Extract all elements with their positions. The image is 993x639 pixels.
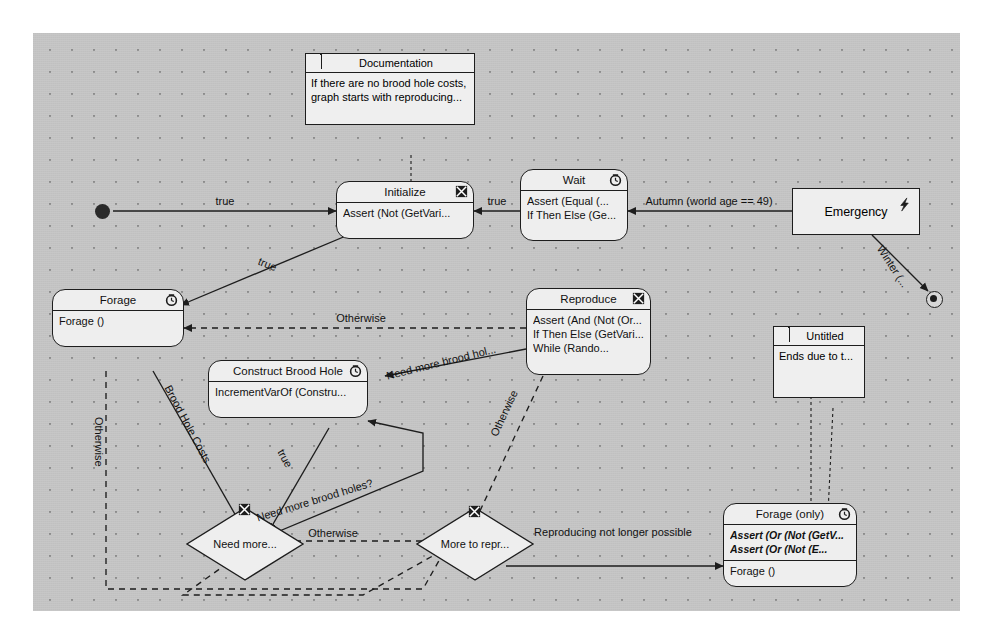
state-body: Assert (And (Not (Or... If Then Else (Ge… <box>527 310 650 359</box>
anchor-untitled-note <box>828 408 833 513</box>
edge-label-otherwise-decision: Otherwise <box>308 527 358 539</box>
state-title: Wait <box>563 174 586 186</box>
state-line: Assert (Equal (... <box>527 194 621 208</box>
lightning-icon <box>897 197 912 212</box>
state-forage-only[interactable]: Forage (only) Assert (Or (Not (GetV... A… <box>723 503 857 587</box>
state-header: Initialize <box>337 182 473 203</box>
crossed-box-icon <box>454 184 469 199</box>
state-body: Assert (Or (Not (GetV... Assert (Or (Not… <box>724 525 856 560</box>
crossed-box-icon <box>631 291 646 306</box>
note-body: Ends due to t... <box>774 346 864 366</box>
decision-need-more[interactable]: Need more... <box>185 506 305 582</box>
state-title: Forage <box>100 294 136 306</box>
state-title: Emergency <box>824 205 887 219</box>
state-wait[interactable]: Wait Assert (Equal (... If Then Else (Ge… <box>520 169 628 241</box>
state-line: Assert (Or (Not (GetV... <box>730 528 850 542</box>
diagram-editor: Documentation If there are no brood hole… <box>0 0 993 639</box>
decision-label: Need more... <box>185 506 305 582</box>
state-line: Assert (Or (Not (E... <box>730 542 850 556</box>
note-fold-icon <box>306 54 322 69</box>
edge-label-otherwise-long: Otherwise <box>93 417 105 467</box>
crossed-box-icon <box>467 504 482 519</box>
state-body-secondary: Forage () <box>724 560 856 582</box>
edge-label-true-initial: true <box>216 195 235 207</box>
state-line: While (Rando... <box>533 341 644 355</box>
state-header: Forage <box>53 290 183 311</box>
documentation-note[interactable]: Documentation If there are no brood hole… <box>305 53 475 125</box>
state-title: Construct Brood Hole <box>233 365 343 377</box>
edge-label-otherwise-forage: Otherwise <box>336 312 386 324</box>
initial-state[interactable] <box>95 204 110 219</box>
clock-icon <box>837 506 852 521</box>
note-fold-icon <box>774 327 790 342</box>
edge-label-reproducing-not-possible: Reproducing not longer possible <box>534 526 692 538</box>
state-reproduce[interactable]: Reproduce Assert (And (Not (Or... If The… <box>526 288 651 375</box>
state-header: Construct Brood Hole <box>209 361 367 382</box>
state-title: Forage (only) <box>756 508 824 520</box>
clock-icon <box>608 172 623 187</box>
edge-label-true-wait: true <box>488 195 507 207</box>
state-header: Wait <box>521 170 627 191</box>
state-line: Assert (Not (GetVari... <box>343 206 467 220</box>
state-forage[interactable]: Forage Forage () <box>52 289 184 347</box>
state-line: Assert (And (Not (Or... <box>533 313 644 327</box>
note-title: Documentation <box>306 54 474 73</box>
state-construct-brood-hole[interactable]: Construct Brood Hole IncrementVarOf (Con… <box>208 360 368 418</box>
crossed-box-icon <box>237 502 252 517</box>
note-line: If there are no brood hole costs, <box>311 76 469 90</box>
state-title: Reproduce <box>560 293 616 305</box>
note-line: graph starts with reproducing... <box>311 90 469 104</box>
decision-more-to-repr[interactable]: More to repr... <box>415 506 535 582</box>
edge-label-autumn: Autumn (world age == 49) <box>645 195 772 207</box>
state-line: If Then Else (GetVari... <box>533 327 644 341</box>
state-body: Assert (Equal (... If Then Else (Ge... <box>521 191 627 226</box>
state-title: Initialize <box>384 186 426 198</box>
state-emergency[interactable]: Emergency <box>792 188 920 235</box>
state-body: Forage () <box>53 311 183 332</box>
state-body: Assert (Not (GetVari... <box>337 203 473 224</box>
untitled-note[interactable]: Untitled Ends due to t... <box>773 326 865 398</box>
diagram-canvas[interactable]: Documentation If there are no brood hole… <box>33 33 960 611</box>
state-line: Forage () <box>59 314 177 328</box>
note-line: Ends due to t... <box>779 349 859 363</box>
state-line: Forage () <box>730 564 850 578</box>
final-state[interactable] <box>926 291 943 308</box>
note-body: If there are no brood hole costs, graph … <box>306 73 474 107</box>
clock-icon <box>164 292 179 307</box>
state-header: Reproduce <box>527 289 650 310</box>
state-body: IncrementVarOf (Constru... <box>209 382 367 403</box>
state-line: IncrementVarOf (Constru... <box>215 385 361 399</box>
state-initialize[interactable]: Initialize Assert (Not (GetVari... <box>336 181 474 239</box>
state-line: If Then Else (Ge... <box>527 208 621 222</box>
clock-icon <box>348 363 363 378</box>
state-header: Forage (only) <box>724 504 856 525</box>
